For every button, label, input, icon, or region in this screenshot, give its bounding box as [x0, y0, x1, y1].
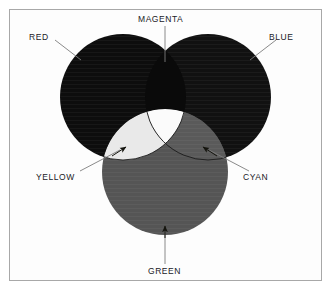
label-red: RED [29, 32, 49, 42]
color-mixing-figure: MAGENTA RED BLUE YELLOW CYAN GREEN [0, 0, 331, 290]
label-blue: BLUE [269, 32, 293, 42]
label-yellow: YELLOW [36, 172, 75, 182]
label-cyan: CYAN [243, 172, 268, 182]
leader-blue [250, 40, 276, 60]
label-green: GREEN [148, 266, 181, 276]
leader-red [55, 40, 81, 60]
label-magenta: MAGENTA [138, 14, 183, 24]
venn-diagram-canvas [0, 0, 331, 290]
